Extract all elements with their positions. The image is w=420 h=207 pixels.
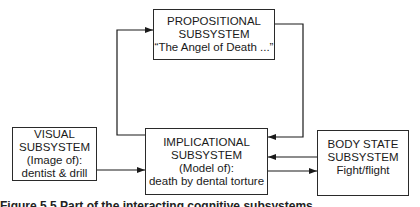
propositional-subtitle: SUBSYSTEM bbox=[179, 28, 250, 41]
visual-title: VISUAL bbox=[34, 128, 75, 141]
propositional-title: PROPOSITIONAL bbox=[167, 15, 261, 28]
implicational-title: IMPLICATIONAL bbox=[163, 136, 250, 149]
visual-qualifier: (Image of): bbox=[27, 154, 83, 167]
body-state-subtitle: SUBSYSTEM bbox=[328, 151, 399, 164]
arrow-implicational-to-propositional bbox=[117, 30, 153, 135]
body-state-content: Fight/flight bbox=[336, 164, 389, 177]
figure-caption: Figure 5.5 Part of the interacting cogni… bbox=[0, 199, 313, 207]
propositional-subsystem-box: PROPOSITIONAL SUBSYSTEM “The Angel of De… bbox=[153, 9, 275, 60]
propositional-content: “The Angel of Death ...” bbox=[155, 41, 274, 54]
implicational-content: death by dental torture bbox=[149, 175, 264, 188]
visual-subsystem-box: VISUAL SUBSYSTEM (Image of): dentist & d… bbox=[12, 127, 97, 181]
visual-subtitle: SUBSYSTEM bbox=[19, 141, 90, 154]
visual-content: dentist & drill bbox=[22, 167, 88, 180]
body-state-subsystem-box: BODY STATE SUBSYSTEM Fight/flight bbox=[317, 130, 409, 196]
body-state-title: BODY STATE bbox=[328, 138, 399, 151]
implicational-subtitle: SUBSYSTEM bbox=[171, 149, 242, 162]
implicational-subsystem-box: IMPLICATIONAL SUBSYSTEM (Model of): deat… bbox=[145, 128, 268, 195]
implicational-qualifier: (Model of): bbox=[179, 162, 234, 175]
